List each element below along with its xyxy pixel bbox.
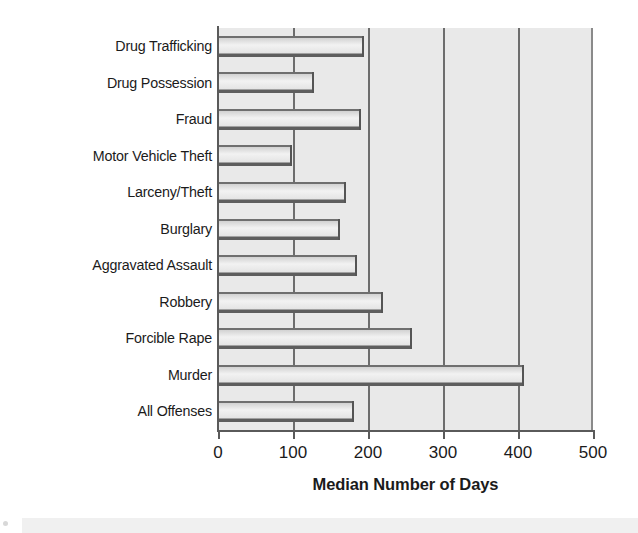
bar: [218, 401, 354, 422]
bar: [218, 36, 364, 57]
x-tick-label: 200: [338, 443, 398, 463]
x-tick-300: [443, 430, 445, 439]
x-tick-500: [593, 430, 595, 439]
bar: [218, 182, 346, 203]
category-label: Aggravated Assault: [13, 257, 212, 273]
x-tick-0: [218, 430, 220, 439]
category-label: Murder: [13, 367, 212, 383]
x-tick-100: [293, 430, 295, 439]
category-label: Larceny/Theft: [13, 184, 212, 200]
bar: [218, 365, 524, 386]
x-axis-title: Median Number of Days: [218, 475, 593, 494]
horizontal-bar-chart: Drug Trafficking Drug Possession Fraud M…: [0, 0, 638, 533]
category-label: Drug Trafficking: [13, 38, 212, 54]
x-tick-label: 100: [263, 443, 323, 463]
category-label: Motor Vehicle Theft: [13, 148, 212, 164]
x-tick-200: [368, 430, 370, 439]
x-axis-line: [217, 430, 595, 432]
category-label: Robbery: [13, 294, 212, 310]
category-label: Forcible Rape: [13, 330, 212, 346]
x-tick-400: [518, 430, 520, 439]
bar: [218, 255, 357, 276]
bar: [218, 145, 292, 166]
bar: [218, 328, 412, 349]
category-axis-labels: Drug Trafficking Drug Possession Fraud M…: [0, 28, 212, 430]
x-tick-label: 300: [413, 443, 473, 463]
bottom-divider-strip: [22, 518, 638, 533]
plot-area: [218, 28, 593, 430]
category-label: Burglary: [13, 221, 212, 237]
x-tick-label: 0: [188, 443, 248, 463]
category-label: Drug Possession: [13, 75, 212, 91]
x-tick-label: 500: [563, 443, 623, 463]
category-label: Fraud: [13, 111, 212, 127]
bar: [218, 219, 340, 240]
bar: [218, 72, 314, 93]
plot-right-border: [591, 28, 593, 430]
x-tick-label: 400: [488, 443, 548, 463]
bar: [218, 292, 383, 313]
bar: [218, 109, 361, 130]
corner-dot: [3, 521, 8, 526]
y-axis-line: [217, 26, 219, 432]
category-label: All Offenses: [13, 403, 212, 419]
